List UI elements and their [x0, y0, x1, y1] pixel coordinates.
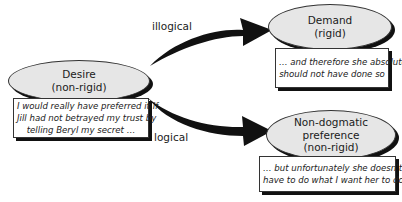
desire-title: Desire [62, 68, 95, 81]
preference-quote-line: … but unfortunately she doesn't [263, 162, 392, 174]
desire-quote-line: telling Beryl my secret … [17, 124, 145, 136]
preference-quote: … but unfortunately she doesn't have to … [259, 156, 396, 192]
edge-label-logical: logical [154, 131, 188, 143]
desire-quote: I would really have preferred it if Jill… [13, 98, 149, 138]
demand-quote-line: should not have done so [279, 68, 385, 80]
demand-subtitle: (rigid) [314, 27, 346, 40]
preference-subtitle: (non-rigid) [303, 141, 358, 154]
preference-quote-line: have to do what I want her to do [263, 174, 392, 186]
demand-title: Demand [308, 14, 353, 27]
demand-quote-line: … and therefore she absolutely [279, 56, 385, 68]
desire-subtitle: (non-rigid) [51, 81, 106, 94]
demand-quote: … and therefore she absolutely should no… [275, 48, 389, 88]
desire-quote-line: I would really have preferred it if [17, 100, 145, 112]
non-dogmatic-preference-node: Non-dogmatic preference (non-rigid) [266, 110, 396, 160]
desire-quote-line: Jill had not betrayed my trust by [17, 112, 145, 124]
preference-title-line: Non-dogmatic [294, 116, 368, 129]
demand-node: Demand (rigid) [268, 4, 392, 50]
preference-title-line: preference [303, 129, 360, 142]
desire-node: Desire (non-rigid) [8, 60, 150, 102]
edge-label-illogical: illogical [152, 20, 192, 32]
